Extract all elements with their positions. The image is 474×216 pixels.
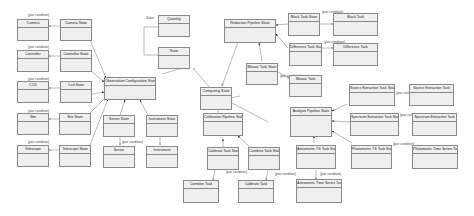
class-ccd-state[interactable]: Ccd State: [60, 81, 92, 103]
class-combine-task[interactable]: Combine Task: [183, 180, 219, 203]
class-controller[interactable]: Controller: [17, 50, 49, 72]
class-astrometric-time-series-task[interactable]: Astrometric Time Series Task: [296, 179, 342, 203]
class-instrument-state[interactable]: Instrument State: [146, 115, 178, 137]
class-state[interactable]: State: [158, 47, 190, 69]
class-black-task-state[interactable]: Black Task State: [288, 13, 320, 36]
class-server-state[interactable]: Server State: [103, 115, 135, 137]
self-label: Value: [146, 16, 154, 20]
class-server[interactable]: Server: [103, 146, 135, 168]
class-telescope[interactable]: Telescope: [17, 145, 49, 167]
class-observation-configuration-state[interactable]: Observation Configuration State: [104, 77, 156, 100]
class-calibrate-task[interactable]: Calibrate Task: [238, 180, 274, 203]
edge-label: {pair condition}: [28, 13, 49, 17]
class-mosaic-task[interactable]: Mosaic Task: [289, 75, 322, 97]
class-site-state[interactable]: Site State: [59, 113, 91, 135]
edge-label: {pair condition}: [28, 140, 49, 144]
class-spectrum-extraction-task-state[interactable]: Spectrum Extraction Task State: [350, 113, 399, 136]
class-site[interactable]: Site: [17, 113, 49, 135]
edge-label: {pair condition}: [226, 170, 247, 174]
class-source-extraction-task[interactable]: Source Extraction Task: [409, 84, 454, 106]
class-combine-task-state[interactable]: Combine Task State: [248, 147, 280, 170]
class-source-extraction-task-state[interactable]: Source Extraction Task State: [349, 84, 395, 106]
edge-label: {pair condition}: [320, 172, 341, 176]
class-computing-state[interactable]: Computing State: [200, 87, 232, 110]
class-reduction-pipeline-state[interactable]: Reduction Pipeline State: [224, 19, 276, 43]
class-quantity[interactable]: Quantity: [158, 15, 190, 37]
class-difference-task[interactable]: Difference Task: [333, 43, 378, 66]
class-photometric-ts-task-state[interactable]: Photometric TS Task State: [351, 145, 392, 169]
class-spectrum-extraction-task[interactable]: Spectrum Extraction Task: [412, 113, 457, 136]
class-controller-state[interactable]: Controller State: [60, 50, 92, 72]
class-ccd[interactable]: CCD: [17, 81, 49, 103]
edge-label: {pair condition}: [275, 172, 296, 176]
class-instrument[interactable]: Instrument: [146, 146, 178, 168]
edge-label: {pair condition}: [28, 45, 49, 49]
class-analysis-pipeline-state[interactable]: Analysis Pipeline State: [290, 107, 332, 137]
class-photometric-time-series-task[interactable]: Photometric Time Series Task: [412, 145, 458, 169]
class-difference-task-state[interactable]: Difference Task State: [289, 43, 322, 66]
class-astrometric-ts-task-state[interactable]: Astrometric TS Task State: [296, 145, 336, 169]
edge-label: {pair condition}: [122, 140, 143, 144]
edge-label: {pair condition}: [393, 142, 414, 146]
class-calibration-pipeline-state[interactable]: Calibration Pipeline State: [203, 113, 243, 136]
class-camera-state[interactable]: Camera State: [60, 19, 92, 41]
class-camera[interactable]: Camera: [17, 19, 49, 41]
class-black-task[interactable]: Black Task: [333, 13, 378, 36]
class-calibrate-task-state[interactable]: Calibrate Task State: [207, 147, 239, 170]
class-telescope-state[interactable]: Telescope State: [59, 145, 91, 167]
class-mosaic-task-state[interactable]: Mosaic Task State: [246, 63, 278, 85]
